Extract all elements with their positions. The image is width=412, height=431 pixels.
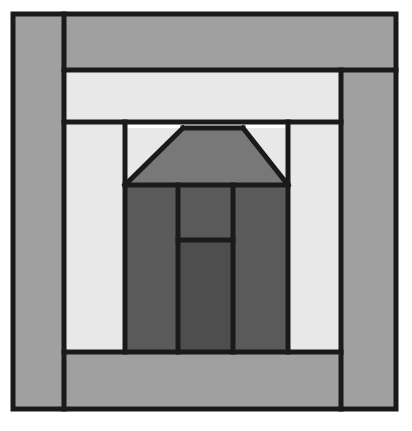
transom-panel: Transom over door	[178, 185, 233, 240]
quilt-block-canvas: Left border logTop border logRight borde…	[0, 0, 412, 431]
border-right-strip: Right border log	[341, 70, 396, 409]
door-panel: Door	[178, 240, 233, 352]
border-bottom-strip: Bottom border log	[64, 352, 341, 409]
sash-right-strip: Right light sash	[288, 122, 341, 352]
sash-top-strip: Upper light sash	[64, 70, 341, 122]
border-top-strip: Top border log	[64, 14, 396, 70]
wall-right-panel: Right wall panel	[233, 185, 288, 352]
border-left-strip: Left border log	[13, 14, 64, 409]
wall-left-panel: Left wall panel	[125, 185, 178, 352]
sash-left-strip: Left light sash	[64, 122, 125, 352]
quilt-block-viewport: Schoolhouse Log Cabin Quilt Block Left b…	[0, 0, 412, 431]
